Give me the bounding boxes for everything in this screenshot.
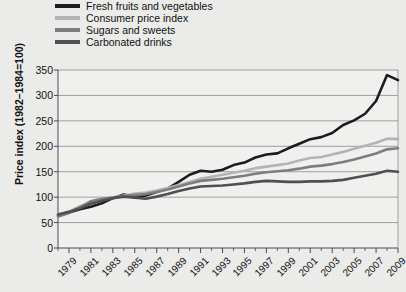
plot-area bbox=[0, 0, 406, 292]
price-index-line-chart: Fresh fruits and vegetables Consumer pri… bbox=[0, 0, 406, 292]
